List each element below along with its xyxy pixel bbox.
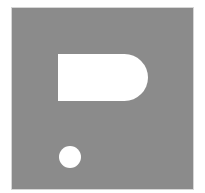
placeholder-icon (11, 7, 194, 190)
dot-shape (59, 146, 81, 168)
bar-shape (58, 54, 148, 101)
